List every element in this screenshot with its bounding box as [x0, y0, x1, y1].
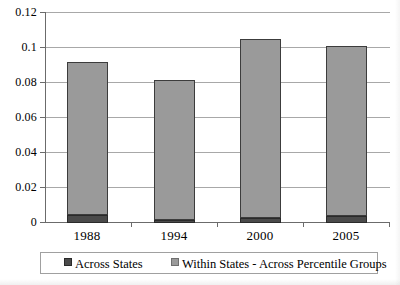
y-tick-label-0.02: 0.02: [0, 181, 37, 193]
chart-legend: Across States Within States - Across Per…: [40, 252, 378, 274]
light-square-swatch-icon: [171, 258, 179, 266]
dark-square-swatch-icon: [64, 258, 72, 266]
legend-label-within-states: Within States - Across Percentile Groups: [182, 257, 387, 271]
y-tick-label-0.08: 0.08: [0, 76, 37, 88]
bar-2000: [240, 12, 281, 223]
y-tick-0.12: [40, 12, 45, 13]
bar-segment-within-states-2000: [240, 39, 281, 218]
bar-segment-across-states-1988: [67, 215, 108, 223]
bar-segment-across-states-1994: [154, 220, 195, 224]
legend-item-within-states: Within States - Across Percentile Groups: [171, 256, 387, 272]
y-tick-0.04: [40, 152, 45, 153]
legend-label-across-states: Across States: [75, 257, 143, 271]
bar-1988: [67, 12, 108, 223]
y-tick-0.1: [40, 47, 45, 48]
x-axis-label-2000: 2000: [220, 228, 300, 244]
y-tick-label-0.06: 0.06: [0, 111, 37, 123]
bar-segment-within-states-2005: [326, 46, 367, 216]
bar-segment-within-states-1994: [154, 80, 195, 219]
x-tick-2: [217, 222, 218, 227]
x-tick-4: [389, 222, 390, 227]
legend-item-across-states: Across States: [64, 256, 143, 272]
y-tick-0.06: [40, 117, 45, 118]
scan-edge-shading-bottom: [0, 279, 400, 285]
bar-2005: [326, 12, 367, 223]
bar-segment-within-states-1988: [67, 62, 108, 215]
y-tick-label-0.12: 0.12: [0, 6, 37, 18]
bar-1994: [154, 12, 195, 223]
bar-segment-across-states-2005: [326, 216, 367, 223]
stacked-bar-chart: 0.12 0.1 0.08 0.06 0.04 0.02 0 1988 1994…: [0, 0, 400, 285]
y-tick-0: [40, 222, 45, 223]
x-tick-1: [131, 222, 132, 227]
y-tick-0.08: [40, 82, 45, 83]
x-axis-label-2005: 2005: [306, 228, 386, 244]
bar-segment-across-states-2000: [240, 218, 281, 223]
x-tick-3: [303, 222, 304, 227]
y-tick-label-0.04: 0.04: [0, 146, 37, 158]
y-tick-label-0: 0: [0, 216, 37, 228]
y-tick-0.02: [40, 187, 45, 188]
scan-edge-shading-right: [395, 0, 400, 285]
x-axis-label-1988: 1988: [47, 228, 127, 244]
x-axis-label-1994: 1994: [134, 228, 214, 244]
y-axis-line: [45, 12, 46, 223]
y-tick-label-0.1: 0.1: [0, 41, 37, 53]
